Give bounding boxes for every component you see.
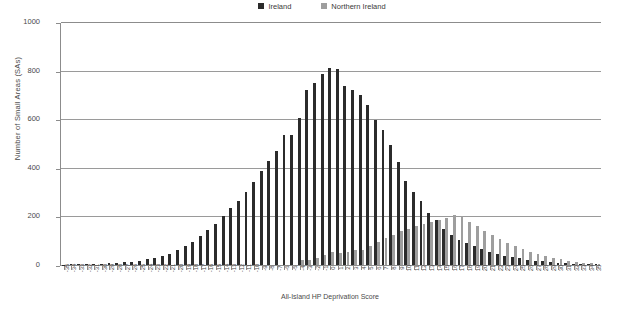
bar-slot [69, 22, 77, 265]
x-tick-label-slot: 5 [364, 268, 372, 290]
bar-northern-ireland [339, 253, 342, 265]
bar-slot [540, 22, 548, 265]
bar-northern-ireland [499, 239, 502, 265]
bar-ireland [290, 135, 293, 265]
bar-group [61, 22, 601, 265]
bar-northern-ireland [537, 254, 540, 265]
y-tick-mark-400 [56, 169, 60, 170]
bar-northern-ireland [331, 252, 334, 265]
bar-slot [84, 22, 92, 265]
bar-slot [213, 22, 221, 265]
bar-slot [282, 22, 290, 265]
x-tick-label-slot: -22 [159, 268, 167, 290]
bar-slot [518, 22, 526, 265]
bar-slot [548, 22, 556, 265]
bar-slot [510, 22, 518, 265]
x-tick-label-slot: 4 [357, 268, 365, 290]
bar-slot [107, 22, 115, 265]
bar-slot [335, 22, 343, 265]
x-tick-label-slot: 6 [372, 268, 380, 290]
bar-northern-ireland [369, 246, 372, 265]
bar-ireland [191, 242, 194, 265]
bar-northern-ireland [377, 242, 380, 265]
legend-item-northern-ireland: Northern Ireland [321, 2, 385, 11]
bar-northern-ireland [453, 215, 456, 265]
y-tick-mark-200 [56, 217, 60, 218]
y-tick-label-600: 600 [0, 115, 40, 123]
bar-ireland [237, 201, 240, 265]
y-tick-mark-1000 [56, 23, 60, 24]
bar-slot [114, 22, 122, 265]
bar-northern-ireland [491, 235, 494, 265]
bar-northern-ireland [400, 231, 403, 265]
bar-ireland [245, 192, 248, 265]
x-tick-label-slot: -27 [121, 268, 129, 290]
x-tick-label-slot: -30 [98, 268, 106, 290]
x-tick-label-slot: 35 [593, 268, 601, 290]
bar-slot [145, 22, 153, 265]
x-tick-label-slot: 32 [570, 268, 578, 290]
x-tick-label-slot: 14 [433, 268, 441, 290]
bar-slot [419, 22, 427, 265]
x-tick-label-slot: 28 [539, 268, 547, 290]
bar-slot [480, 22, 488, 265]
bar-northern-ireland [445, 218, 448, 265]
bar-ireland [267, 161, 270, 265]
x-tick-label-slot: -11 [243, 268, 251, 290]
bar-northern-ireland [461, 216, 464, 265]
x-tick-label-slot: -5 [288, 268, 296, 290]
chart-container: Ireland Northern Ireland Number of Small… [0, 0, 644, 313]
x-tick-label-slot: 30 [555, 268, 563, 290]
bar-ireland [206, 230, 209, 265]
bar-slot [289, 22, 297, 265]
bar-northern-ireland [529, 252, 532, 265]
x-tick-label-slot: -35 [60, 268, 68, 290]
bar-slot [175, 22, 183, 265]
bar-slot [578, 22, 586, 265]
y-tick-mark-0 [56, 266, 60, 267]
bar-northern-ireland [468, 222, 471, 265]
x-tick-label-slot: 0 [326, 268, 334, 290]
bar-slot [495, 22, 503, 265]
x-tick-label-slot: -14 [220, 268, 228, 290]
y-tick-label-1000: 1000 [0, 18, 40, 26]
bar-northern-ireland [506, 243, 509, 265]
x-tick-label-slot: -4 [296, 268, 304, 290]
bar-slot [91, 22, 99, 265]
bar-ireland [343, 86, 346, 265]
x-tick-label-slot: -1 [319, 268, 327, 290]
x-tick-label-slot: -8 [265, 268, 273, 290]
y-axis-title: Number of Small Areas (SAs) [13, 0, 22, 224]
bar-slot [472, 22, 480, 265]
x-tick-label-slot: -6 [281, 268, 289, 290]
bar-slot [244, 22, 252, 265]
bar-northern-ireland [476, 226, 479, 265]
bar-ireland [351, 90, 354, 265]
x-tick-label-slot: -2 [311, 268, 319, 290]
x-tick-label-slot: 10 [402, 268, 410, 290]
x-tick-label-slot: 31 [562, 268, 570, 290]
bar-ireland [229, 208, 232, 265]
x-tick-label-slot: 3 [349, 268, 357, 290]
x-tick-label-slot: 7 [380, 268, 388, 290]
bar-northern-ireland [483, 231, 486, 265]
bar-slot [388, 22, 396, 265]
bar-northern-ireland [392, 235, 395, 265]
bar-slot [129, 22, 137, 265]
bar-slot [259, 22, 267, 265]
bar-slot [305, 22, 313, 265]
bar-ireland [321, 74, 324, 265]
bar-slot [206, 22, 214, 265]
bar-slot [502, 22, 510, 265]
bar-slot [221, 22, 229, 265]
x-tick-label: 35 [596, 265, 602, 272]
bar-slot [365, 22, 373, 265]
x-tick-label-slot: -13 [227, 268, 235, 290]
bar-slot [457, 22, 465, 265]
x-tick-label-slot: 15 [440, 268, 448, 290]
x-tick-label-slot: 17 [456, 268, 464, 290]
x-tick-label-slot: 25 [517, 268, 525, 290]
x-tick-label-slot: -18 [189, 268, 197, 290]
x-tick-label-slot: 13 [425, 268, 433, 290]
bar-northern-ireland [324, 255, 327, 265]
